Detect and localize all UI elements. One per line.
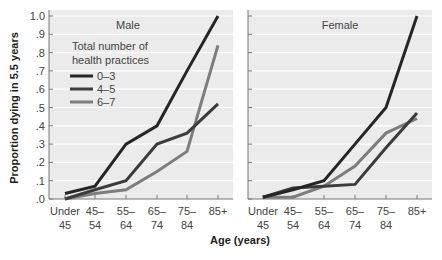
x-tick-label: 74 (151, 219, 163, 231)
x-tick-label: 65– (346, 205, 365, 217)
legend-title: Total number of (72, 40, 149, 52)
x-tick-label: 84 (380, 219, 392, 231)
y-tick-label: .8 (36, 47, 45, 59)
x-tick-label: 54 (89, 219, 101, 231)
x-tick-label: 54 (287, 219, 299, 231)
y-tick-label: 1.0 (30, 10, 45, 22)
y-tick-label: .1 (36, 175, 45, 187)
x-axis-title: Age (years) (210, 234, 270, 246)
x-tick-label: 75– (377, 205, 396, 217)
y-axis-title: Proportion dying in 5.5 years (8, 32, 20, 184)
x-tick-label: 85+ (408, 205, 427, 217)
y-tick-label: .7 (36, 65, 45, 77)
x-tick-label: 64 (120, 219, 132, 231)
x-tick-label: 84 (181, 219, 193, 231)
x-tick-label: 45– (284, 205, 303, 217)
x-tick-label: 45 (59, 219, 71, 231)
x-tick-label: 65– (148, 205, 167, 217)
x-tick-label: Under (248, 205, 278, 217)
x-tick-label: 45 (257, 219, 269, 231)
x-tick-label: 75– (178, 205, 197, 217)
x-tick-label: 55– (117, 205, 136, 217)
y-tick-label: .9 (36, 28, 45, 40)
legend-title: health practices (72, 54, 150, 66)
legend-label: 0–3 (97, 70, 115, 82)
line-chart: Proportion dying in 5.5 years Age (years… (0, 0, 442, 260)
y-tick-label: .3 (36, 138, 45, 150)
x-tick-label: 74 (349, 219, 361, 231)
x-tick-label: Under (50, 205, 80, 217)
panel-title: Female (322, 19, 359, 31)
legend-label: 4–5 (97, 83, 115, 95)
y-tick-label: .4 (36, 120, 45, 132)
x-tick-label: 45– (86, 205, 105, 217)
panel-female: Under4545–5455–6465–7475–8485+Female (248, 10, 432, 231)
y-tick-label: .6 (36, 83, 45, 95)
y-tick-label: .0 (36, 193, 45, 205)
legend-label: 6–7 (97, 96, 115, 108)
y-tick-label: .2 (36, 156, 45, 168)
x-tick-label: 55– (315, 205, 334, 217)
y-tick-label: .5 (36, 102, 45, 114)
panel-title: Male (116, 19, 140, 31)
plot-background (248, 10, 432, 199)
x-tick-label: 64 (318, 219, 330, 231)
x-tick-label: 85+ (209, 205, 228, 217)
